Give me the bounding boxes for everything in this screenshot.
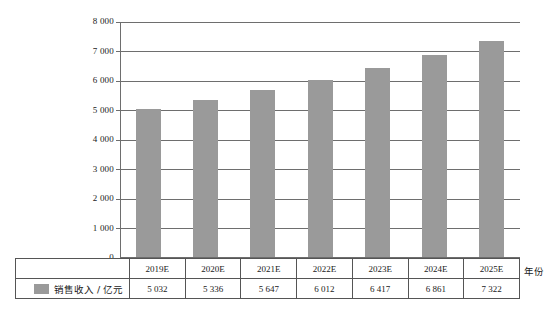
table-cell-category: 2019E <box>130 259 186 279</box>
legend-entry: 销售收入 / 亿元 <box>16 282 129 296</box>
bar <box>479 41 504 257</box>
table-cell-category: 2024E <box>408 259 464 279</box>
table-cell-value: 5 032 <box>130 279 186 299</box>
table-cell-category: 2022E <box>297 259 353 279</box>
table-row-values: 销售收入 / 亿元 5 0325 3365 6476 0126 4176 861… <box>16 279 520 299</box>
bar <box>365 68 390 257</box>
bar <box>422 55 447 257</box>
y-tick-label: 2 000 <box>76 194 114 203</box>
bar-series <box>120 22 520 258</box>
table-cell-value: 6 861 <box>408 279 464 299</box>
chart-figure: 01 0002 0003 0004 0005 0006 0007 0008 00… <box>0 0 552 310</box>
y-tick-label: 8 000 <box>76 17 114 26</box>
table-legend-cell: 销售收入 / 亿元 <box>16 279 130 299</box>
table-cell-category: 2023E <box>352 259 408 279</box>
table-cell-category: 2020E <box>185 259 241 279</box>
legend-label: 销售收入 / 亿元 <box>54 282 123 296</box>
table-corner-cell <box>16 259 130 279</box>
x-axis-title: 年份 <box>524 264 544 278</box>
table-cell-category: 2021E <box>241 259 297 279</box>
y-tick-label: 3 000 <box>76 165 114 174</box>
legend-swatch-icon <box>34 284 49 294</box>
bar <box>308 80 333 257</box>
table-cell-value: 5 647 <box>241 279 297 299</box>
table-cell-value: 6 417 <box>352 279 408 299</box>
bar <box>250 90 275 257</box>
table-cell-value: 5 336 <box>185 279 241 299</box>
table-cell-value: 6 012 <box>297 279 353 299</box>
plot-area: 01 0002 0003 0004 0005 0006 0007 0008 00… <box>120 22 520 258</box>
table-cell-category: 2025E <box>464 259 520 279</box>
bar <box>193 100 218 257</box>
data-table: 2019E2020E2021E2022E2023E2024E2025E 销售收入… <box>15 258 520 299</box>
y-tick-label: 7 000 <box>76 47 114 56</box>
table-row-categories: 2019E2020E2021E2022E2023E2024E2025E <box>16 259 520 279</box>
y-tick-label: 5 000 <box>76 106 114 115</box>
y-tick-label: 1 000 <box>76 224 114 233</box>
y-tick-label: 6 000 <box>76 76 114 85</box>
table-cell-value: 7 322 <box>464 279 520 299</box>
bar <box>136 109 161 257</box>
y-tick-label: 4 000 <box>76 135 114 144</box>
